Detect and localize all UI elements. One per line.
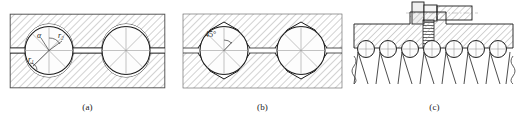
ball-right-a <box>102 27 150 75</box>
figure-panel-row: α r₂ r₁ (a) <box>0 0 519 116</box>
figure-panel-b: 45° (b) <box>175 0 350 116</box>
label-r1-a: r₁ <box>28 55 34 64</box>
caption-b: (b) <box>175 102 350 112</box>
caption-c: (c) <box>350 102 519 112</box>
caption-a: (a) <box>0 102 175 112</box>
figure-panel-a: α r₂ r₁ (a) <box>0 0 175 116</box>
figure-panel-c: (c) <box>350 0 519 116</box>
label-45deg-b: 45° <box>205 30 216 39</box>
ball-right-b <box>277 27 325 75</box>
label-r2-a: r₂ <box>58 31 64 40</box>
